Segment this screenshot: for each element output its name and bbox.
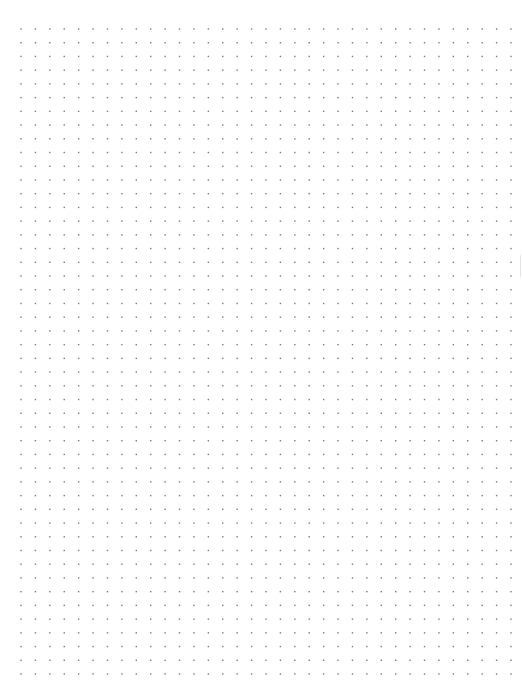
grid-dot <box>179 385 180 386</box>
grid-dot <box>236 371 237 372</box>
grid-dot <box>366 316 367 317</box>
grid-dot <box>309 179 310 180</box>
grid-dot <box>49 262 50 263</box>
grid-dot <box>381 564 382 565</box>
grid-dot <box>193 385 194 386</box>
grid-dot <box>78 399 79 400</box>
grid-dot <box>280 69 281 70</box>
grid-dot <box>179 371 180 372</box>
grid-dot <box>107 193 108 194</box>
grid-dot <box>222 179 223 180</box>
grid-dot <box>453 413 454 414</box>
grid-dot <box>35 166 36 167</box>
grid-dot <box>453 495 454 496</box>
grid-dot <box>49 344 50 345</box>
grid-dot <box>337 303 338 304</box>
grid-dot <box>121 138 122 139</box>
grid-dot <box>35 605 36 606</box>
grid-dot <box>337 316 338 317</box>
grid-dot <box>150 577 151 578</box>
grid-dot <box>453 632 454 633</box>
grid-dot <box>78 193 79 194</box>
grid-dot <box>107 481 108 482</box>
grid-dot <box>294 111 295 112</box>
grid-dot <box>64 550 65 551</box>
grid-dot <box>107 262 108 263</box>
grid-dot <box>467 440 468 441</box>
grid-dot <box>352 83 353 84</box>
grid-dot <box>64 289 65 290</box>
grid-dot <box>409 385 410 386</box>
grid-dot <box>150 454 151 455</box>
grid-dot <box>438 193 439 194</box>
grid-dot <box>424 577 425 578</box>
grid-dot <box>20 262 21 263</box>
grid-dot <box>323 495 324 496</box>
grid-dot <box>236 152 237 153</box>
grid-dot <box>121 440 122 441</box>
grid-dot <box>366 262 367 263</box>
grid-dot <box>150 495 151 496</box>
grid-dot <box>337 605 338 606</box>
grid-dot <box>496 371 497 372</box>
grid-dot <box>453 591 454 592</box>
grid-dot <box>352 28 353 29</box>
grid-dot <box>294 344 295 345</box>
grid-dot <box>150 275 151 276</box>
grid-dot <box>510 536 511 537</box>
grid-dot <box>78 289 79 290</box>
grid-dot <box>193 632 194 633</box>
grid-dot <box>323 330 324 331</box>
grid-dot <box>294 166 295 167</box>
grid-dot <box>481 289 482 290</box>
grid-dot <box>395 371 396 372</box>
grid-dot <box>164 56 165 57</box>
grid-dot <box>366 289 367 290</box>
grid-dot <box>510 344 511 345</box>
grid-dot <box>510 618 511 619</box>
grid-dot <box>409 481 410 482</box>
grid-dot <box>510 413 511 414</box>
grid-dot <box>265 413 266 414</box>
grid-dot <box>236 591 237 592</box>
grid-dot <box>164 303 165 304</box>
grid-dot <box>208 673 209 674</box>
grid-dot <box>222 591 223 592</box>
grid-dot <box>409 591 410 592</box>
grid-dot <box>64 83 65 84</box>
grid-dot <box>150 179 151 180</box>
grid-dot <box>323 564 324 565</box>
grid-dot <box>438 385 439 386</box>
grid-dot <box>92 111 93 112</box>
grid-dot <box>265 426 266 427</box>
grid-dot <box>236 316 237 317</box>
grid-dot <box>136 358 137 359</box>
grid-dot <box>309 316 310 317</box>
grid-dot <box>107 316 108 317</box>
grid-dot <box>92 385 93 386</box>
grid-dot <box>121 550 122 551</box>
grid-dot <box>510 124 511 125</box>
grid-dot <box>150 550 151 551</box>
grid-dot <box>409 330 410 331</box>
grid-dot <box>121 316 122 317</box>
grid-dot <box>121 83 122 84</box>
grid-dot <box>496 660 497 661</box>
grid-dot <box>150 262 151 263</box>
grid-dot <box>78 42 79 43</box>
grid-dot <box>481 28 482 29</box>
grid-dot <box>294 303 295 304</box>
grid-dot <box>150 564 151 565</box>
grid-dot <box>481 248 482 249</box>
grid-dot <box>265 193 266 194</box>
grid-dot <box>136 632 137 633</box>
grid-dot <box>64 509 65 510</box>
grid-dot <box>64 344 65 345</box>
grid-dot <box>265 454 266 455</box>
grid-dot <box>453 385 454 386</box>
grid-dot <box>222 454 223 455</box>
grid-dot <box>496 83 497 84</box>
grid-dot <box>424 138 425 139</box>
grid-dot <box>251 42 252 43</box>
grid-dot <box>337 179 338 180</box>
